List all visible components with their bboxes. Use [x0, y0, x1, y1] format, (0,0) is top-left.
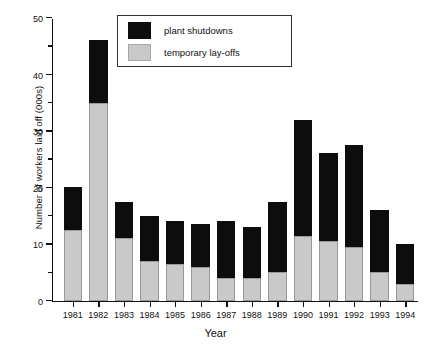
- x-tick-label: 1988: [242, 310, 262, 320]
- bar-segment-temporary-lay-offs[interactable]: [140, 261, 158, 301]
- x-tick-label: 1990: [293, 310, 313, 320]
- x-tick-label: 1993: [370, 310, 390, 320]
- x-tick-label: 1992: [344, 310, 364, 320]
- bar-1987[interactable]: [217, 221, 235, 300]
- legend-label-temporary-lay-offs: temporary lay-offs: [164, 47, 240, 58]
- y-tick-minor: [48, 272, 52, 273]
- bar-segment-plant-shutdowns[interactable]: [243, 227, 261, 278]
- bar-segment-temporary-lay-offs[interactable]: [243, 278, 261, 301]
- bar-segment-temporary-lay-offs[interactable]: [166, 264, 184, 301]
- x-tick: [124, 302, 125, 307]
- x-tick: [150, 302, 151, 307]
- y-tick-major: [46, 74, 52, 75]
- bar-segment-temporary-lay-offs[interactable]: [396, 284, 414, 301]
- legend-swatch-plant-shutdowns: [128, 22, 151, 39]
- y-tick-label: 10: [33, 240, 43, 250]
- bar-segment-temporary-lay-offs[interactable]: [345, 247, 363, 301]
- bar-segment-plant-shutdowns[interactable]: [191, 224, 209, 266]
- y-tick-major: [46, 187, 52, 188]
- x-tick: [252, 302, 253, 307]
- y-axis-line: [52, 19, 53, 302]
- x-tick-label: 1984: [139, 310, 159, 320]
- bar-segment-plant-shutdowns[interactable]: [294, 120, 312, 236]
- bar-1982[interactable]: [89, 40, 107, 300]
- x-tick: [201, 302, 202, 307]
- bar-chart: Number of workers laid off (000s) Year 0…: [0, 0, 431, 350]
- bar-1981[interactable]: [64, 187, 82, 300]
- bar-1992[interactable]: [345, 145, 363, 301]
- bar-segment-plant-shutdowns[interactable]: [89, 40, 107, 102]
- legend-item-plant-shutdowns: plant shutdowns: [128, 22, 233, 39]
- y-tick-minor: [48, 45, 52, 46]
- legend-swatch-temporary-lay-offs: [128, 44, 151, 61]
- x-tick-label: 1987: [216, 310, 236, 320]
- x-tick: [98, 302, 99, 307]
- y-tick-major: [46, 17, 52, 18]
- bar-segment-plant-shutdowns[interactable]: [64, 187, 82, 229]
- x-tick: [277, 302, 278, 307]
- y-tick-label: 20: [33, 184, 43, 194]
- bar-segment-temporary-lay-offs[interactable]: [268, 272, 286, 300]
- bar-1985[interactable]: [166, 221, 184, 300]
- y-tick-major: [46, 243, 52, 244]
- y-tick-label: 50: [33, 14, 43, 24]
- bar-segment-temporary-lay-offs[interactable]: [115, 238, 133, 300]
- x-tick-label: 1994: [395, 310, 415, 320]
- bar-1988[interactable]: [243, 227, 261, 301]
- legend-item-temporary-lay-offs: temporary lay-offs: [128, 44, 240, 61]
- bar-segment-plant-shutdowns[interactable]: [115, 202, 133, 239]
- bar-segment-plant-shutdowns[interactable]: [166, 221, 184, 263]
- legend-label-plant-shutdowns: plant shutdowns: [164, 25, 233, 36]
- chart-legend: plant shutdowns temporary lay-offs: [117, 15, 292, 67]
- x-tick-label: 1985: [165, 310, 185, 320]
- x-axis-line: [52, 301, 418, 302]
- x-tick: [380, 302, 381, 307]
- y-tick-label: 30: [33, 127, 43, 137]
- x-tick: [405, 302, 406, 307]
- bar-segment-temporary-lay-offs[interactable]: [294, 236, 312, 301]
- bar-1990[interactable]: [294, 120, 312, 301]
- bar-segment-temporary-lay-offs[interactable]: [191, 267, 209, 301]
- bar-segment-plant-shutdowns[interactable]: [140, 216, 158, 261]
- y-tick-label: 40: [33, 71, 43, 81]
- x-tick: [175, 302, 176, 307]
- bar-1986[interactable]: [191, 224, 209, 300]
- x-tick: [354, 302, 355, 307]
- y-tick-minor: [48, 102, 52, 103]
- y-tick-label: 0: [38, 297, 43, 307]
- bar-segment-temporary-lay-offs[interactable]: [319, 241, 337, 300]
- x-tick: [303, 302, 304, 307]
- bar-segment-plant-shutdowns[interactable]: [345, 145, 363, 247]
- x-axis-title: Year: [0, 327, 431, 339]
- bar-segment-temporary-lay-offs[interactable]: [217, 278, 235, 301]
- bar-1989[interactable]: [268, 202, 286, 301]
- bar-1991[interactable]: [319, 153, 337, 300]
- x-tick-label: 1982: [88, 310, 108, 320]
- x-tick-label: 1989: [267, 310, 287, 320]
- x-tick-label: 1986: [191, 310, 211, 320]
- bar-segment-plant-shutdowns[interactable]: [396, 244, 414, 284]
- bar-segment-temporary-lay-offs[interactable]: [370, 272, 388, 300]
- y-tick-minor: [48, 158, 52, 159]
- y-tick-major: [46, 300, 52, 301]
- x-tick: [73, 302, 74, 307]
- bar-segment-plant-shutdowns[interactable]: [319, 153, 337, 241]
- bar-segment-plant-shutdowns[interactable]: [217, 221, 235, 278]
- x-tick: [226, 302, 227, 307]
- x-tick-label: 1981: [63, 310, 83, 320]
- bar-segment-plant-shutdowns[interactable]: [268, 202, 286, 273]
- x-tick-label: 1991: [318, 310, 338, 320]
- bar-segment-temporary-lay-offs[interactable]: [64, 230, 82, 301]
- bar-1983[interactable]: [115, 202, 133, 301]
- bar-1994[interactable]: [396, 244, 414, 301]
- y-tick-major: [46, 130, 52, 131]
- bar-segment-temporary-lay-offs[interactable]: [89, 103, 107, 301]
- x-tick-label: 1983: [114, 310, 134, 320]
- bar-1984[interactable]: [140, 216, 158, 301]
- bar-segment-plant-shutdowns[interactable]: [370, 210, 388, 272]
- x-tick: [329, 302, 330, 307]
- y-tick-minor: [48, 215, 52, 216]
- y-axis-title: Number of workers laid off (000s): [33, 58, 44, 258]
- bar-1993[interactable]: [370, 210, 388, 301]
